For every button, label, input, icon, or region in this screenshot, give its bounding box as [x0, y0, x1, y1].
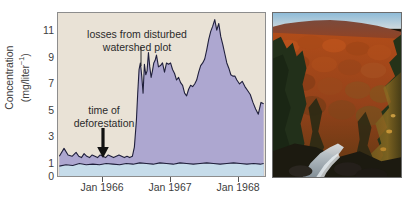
x-tick-label-jan-1966: Jan 1966: [67, 181, 137, 193]
y-tick-label-1: 1: [32, 157, 54, 169]
annotation-losses-line1: losses from disturbed: [73, 28, 201, 41]
annotation-time-of-deforestation: time of deforestation: [56, 104, 152, 129]
y-tick-label-9: 9: [32, 51, 54, 63]
annotation-deforestation-down-arrow-icon: [95, 128, 113, 160]
annotation-losses-leader-line: [130, 47, 154, 69]
y-axis-title: Concentration (mg/liter−1): [3, 23, 31, 133]
chart-container: Concentration (mg/liter−1) 0 1 3 5 7 9 1…: [0, 0, 270, 205]
figure-deforestation-nutrient-loss: Concentration (mg/liter−1) 0 1 3 5 7 9 1…: [0, 0, 406, 205]
y-tick-label-11: 11: [32, 24, 54, 36]
y-tick-label-0: 0: [32, 170, 54, 182]
y-axis-title-line1: Concentration: [3, 46, 15, 110]
y-tick-label-5: 5: [32, 104, 54, 116]
photo-svg: [273, 13, 401, 177]
y-tick-label-7: 7: [32, 77, 54, 89]
y-axis-tick-labels: 0 1 3 5 7 9 11: [28, 0, 54, 205]
annotation-deforestation-line1: time of: [56, 104, 152, 117]
y-axis-title-exponent: −1: [17, 57, 26, 65]
x-tick-label-jan-1967: Jan 1967: [135, 181, 205, 193]
x-tick-label-jan-1968: Jan 1968: [203, 181, 273, 193]
y-tick-label-3: 3: [32, 130, 54, 142]
autumn-forest-stream-photo: [272, 12, 402, 178]
